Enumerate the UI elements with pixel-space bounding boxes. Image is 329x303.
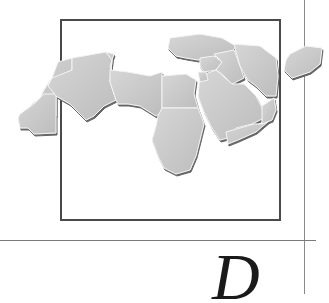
region-libya	[110, 70, 162, 116]
horizontal-rule	[0, 240, 316, 241]
region-jordan	[198, 72, 208, 82]
region-oman	[262, 98, 276, 124]
region-east	[284, 46, 322, 78]
region-egypt	[162, 74, 198, 108]
drop-cap-letter: D	[212, 244, 260, 303]
region-sudan	[152, 108, 204, 174]
